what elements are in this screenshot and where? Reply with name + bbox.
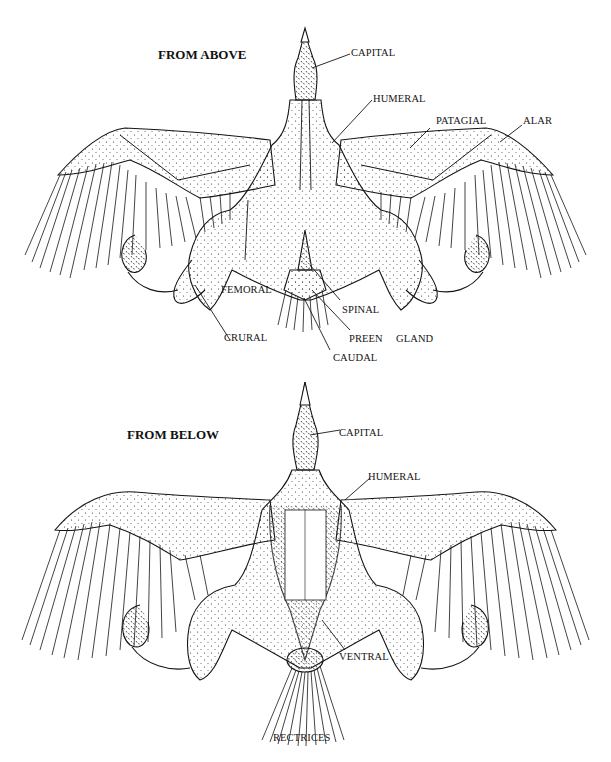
label-patagial: PATAGIAL (436, 116, 486, 127)
label-caudal: CAUDAL (333, 353, 377, 364)
label-alar: ALAR (523, 116, 552, 127)
label-capital-bottom: CAPITAL (339, 428, 383, 439)
label-gland: GLAND (396, 334, 433, 345)
label-rectrices: RECTRICES (273, 733, 331, 744)
right-wing-bottom (336, 492, 556, 560)
label-capital-top: CAPITAL (351, 48, 395, 59)
label-humeral-bottom: HUMERAL (368, 472, 421, 483)
feather-tract-diagram: FROM ABOVE CAPITAL HUMERAL PATAGIAL ALAR… (0, 0, 611, 762)
from-above-title: FROM ABOVE (158, 48, 246, 61)
label-ventral: VENTRAL (339, 652, 389, 663)
label-femoral: FEMORAL (221, 285, 272, 296)
from-below-title: FROM BELOW (127, 428, 219, 441)
label-preen: PREEN (349, 334, 383, 345)
label-humeral-top: HUMERAL (373, 94, 426, 105)
label-spinal: SPINAL (342, 305, 379, 316)
label-crural: CRURAL (224, 333, 267, 344)
left-wing-bottom (55, 492, 275, 560)
bird-from-above (25, 28, 586, 332)
bird-illustrations (0, 0, 611, 762)
bird-from-below (22, 382, 589, 746)
